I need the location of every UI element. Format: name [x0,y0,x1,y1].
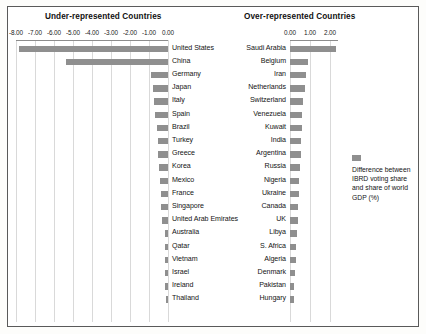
bar[interactable] [19,46,168,52]
bar-row[interactable]: Russia [290,161,338,174]
bar-row[interactable]: S. Africa [290,241,338,254]
bar-row[interactable]: Singapore [16,201,168,214]
bar[interactable] [160,178,168,184]
category-label: United States [172,44,214,52]
bar[interactable] [290,296,294,302]
category-label: Netherlands [248,83,286,91]
bar[interactable] [290,72,306,78]
bar-row[interactable]: Canada [290,201,338,214]
bar[interactable] [290,257,296,263]
bar[interactable] [162,217,168,223]
bar[interactable] [165,270,168,276]
bar-row[interactable]: Italy [16,95,168,108]
bar[interactable] [290,178,299,184]
category-label: Israel [172,268,189,276]
bar-row[interactable]: Australia [16,227,168,240]
bar[interactable] [290,85,305,91]
bar-row[interactable]: Germany [16,69,168,82]
bar-row[interactable]: India [290,135,338,148]
bar-row[interactable]: Denmark [290,267,338,280]
bar-row[interactable]: Brazil [16,122,168,135]
bar[interactable] [290,283,294,289]
bar-row[interactable]: United States [16,43,168,56]
bar[interactable] [290,204,298,210]
bar-row[interactable]: Switzerland [290,95,338,108]
x-axis-tick-label: -1.00 [142,29,156,36]
bar[interactable] [159,164,169,170]
category-label: Kuwait [265,123,286,131]
bar-row[interactable]: Nigeria [290,175,338,188]
bar[interactable] [161,204,168,210]
bar[interactable] [290,164,300,170]
bar-row[interactable]: Libya [290,227,338,240]
bar[interactable] [290,244,296,250]
bar[interactable] [158,151,168,157]
bar-row[interactable]: Spain [16,109,168,122]
category-label: Greece [172,149,195,157]
bar[interactable] [290,151,301,157]
bar[interactable] [166,296,168,302]
right-panel-title: Over-represented Countries [244,12,355,21]
under-represented-plot: -8.00-7.00-6.00-5.00-4.00-3.00-2.00-1.00… [16,40,168,322]
bar[interactable] [290,125,302,131]
bar[interactable] [290,230,297,236]
bar-row[interactable]: United Arab Emirates [16,214,168,227]
bar[interactable] [158,138,168,144]
bar-row[interactable]: Mexico [16,175,168,188]
bar-row[interactable]: Netherlands [290,82,338,95]
bar-row[interactable]: Iran [290,69,338,82]
bar-row[interactable]: Ireland [16,280,168,293]
category-label: Iran [274,70,286,78]
bar[interactable] [155,112,168,118]
bar-row[interactable]: Venezuela [290,109,338,122]
bar-row[interactable]: Vietnam [16,254,168,267]
bar-row[interactable]: Argentina [290,148,338,161]
bar[interactable] [290,270,295,276]
bar-row[interactable]: Turkey [16,135,168,148]
bar-row[interactable]: Saudi Arabia [290,43,338,56]
bar[interactable] [165,230,168,236]
category-label: France [172,189,194,197]
x-axis-tick-label: -8.00 [9,29,23,36]
bar-row[interactable]: Thailand [16,293,168,306]
bar[interactable] [290,98,303,104]
gridline [168,40,169,322]
bar[interactable] [161,191,168,197]
bar-row[interactable]: UK [290,214,338,227]
bar-row[interactable]: Israel [16,267,168,280]
bar[interactable] [290,112,302,118]
category-label: Venezuela [253,110,286,118]
category-label: Mexico [172,176,194,184]
bar-row[interactable]: Qatar [16,241,168,254]
x-axis-tick-label: -2.00 [123,29,137,36]
bar-row[interactable]: Greece [16,148,168,161]
bar-row[interactable]: Korea [16,161,168,174]
bar[interactable] [290,59,308,65]
bar-row[interactable]: Ukraine [290,188,338,201]
bar[interactable] [153,85,168,91]
bar[interactable] [290,217,298,223]
bar[interactable] [154,98,168,104]
bar-row[interactable]: Algeria [290,254,338,267]
bar[interactable] [165,283,168,289]
category-label: S. Africa [260,242,286,250]
bar[interactable] [165,257,168,263]
bar-row[interactable]: Japan [16,82,168,95]
bar[interactable] [290,191,299,197]
bar-row[interactable]: Belgium [290,56,338,69]
bar[interactable] [290,138,301,144]
bar-row[interactable]: France [16,188,168,201]
bar-row[interactable]: China [16,56,168,69]
bar[interactable] [290,46,336,52]
bar[interactable] [66,59,168,65]
x-axis-tick-label: -5.00 [66,29,80,36]
bar-row[interactable]: Hungary [290,293,338,306]
bar[interactable] [151,72,168,78]
category-label: Switzerland [250,96,286,104]
bar-row[interactable]: Kuwait [290,122,338,135]
category-label: United Arab Emirates [172,215,238,223]
bar[interactable] [165,244,168,250]
bar-row[interactable]: Pakistan [290,280,338,293]
bar[interactable] [157,125,168,131]
left-panel-title: Under-represented Countries [45,12,161,21]
